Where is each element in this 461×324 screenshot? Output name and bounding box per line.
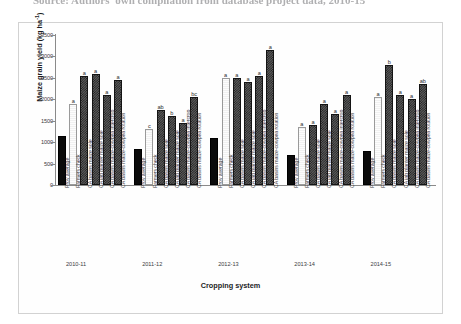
x-tick-label: CA jab planter maize sole	[98, 130, 104, 188]
significance-letter: a	[72, 98, 75, 104]
significance-letter: a	[269, 44, 272, 50]
x-tick-label: CA basins maize sole	[239, 139, 245, 188]
y-tick-mark	[51, 142, 55, 143]
group-year-label: 2013-14	[294, 261, 315, 267]
significance-letter: a	[410, 93, 413, 99]
x-tick-label: Prov average	[64, 158, 70, 188]
y-axis-title: Maize grain yield (kg ha-1)	[34, 0, 44, 132]
x-tick-label: CA jab planter maize sole	[174, 130, 180, 188]
significance-letter: a	[376, 91, 379, 97]
x-tick-label: CA basins maize-cowpea intercrop	[414, 110, 420, 188]
x-tick-label: CA basins maize sole	[163, 139, 169, 188]
x-tick-label: Farmers check	[304, 154, 310, 188]
significance-letter: b	[170, 110, 173, 116]
significance-letter: a	[235, 72, 238, 78]
significance-letter: ab	[157, 104, 163, 110]
x-tick-label: CA basins maize-cowpea rotation	[196, 113, 202, 188]
group-year-label: 2014-15	[371, 261, 392, 267]
x-tick-label: Farmers check	[75, 154, 81, 188]
y-tick-label: 500	[27, 161, 53, 167]
x-tick-label: CA jab planter maize sole	[250, 130, 256, 188]
x-tick-label: CA basins maize-cowpea intercrop	[261, 110, 267, 188]
significance-letter: a	[399, 89, 402, 95]
x-tick-label: Farmers check	[228, 154, 234, 188]
x-tick-label: CA basins maize-cowpea rotation	[273, 113, 279, 188]
significance-letter: a	[94, 68, 97, 74]
x-tick-label: Farmers check	[152, 154, 158, 188]
significance-letter: a	[258, 70, 261, 76]
x-tick-label: CA basins maize sole	[391, 139, 397, 188]
significance-letter: ab	[420, 78, 426, 84]
x-tick-label: CA basins maize sole	[315, 139, 321, 188]
source-caption: Source: Authors' own compilation from da…	[33, 0, 453, 8]
significance-letter: b	[388, 59, 391, 65]
significance-letter: a	[311, 119, 314, 125]
significance-letter: a	[83, 70, 86, 76]
y-tick-mark	[51, 185, 55, 186]
y-tick-mark	[51, 56, 55, 57]
significance-letter: a	[323, 98, 326, 104]
x-tick-label: CA basins maize-cowpea rotation	[425, 113, 431, 188]
x-tick-label: Prov average	[217, 158, 223, 188]
y-tick-mark	[51, 121, 55, 122]
significance-letter: a	[345, 89, 348, 95]
x-tick-label: CA jab planter maize sole	[403, 130, 409, 188]
x-tick-label: CA jab planter maize sole	[326, 130, 332, 188]
significance-letter: a	[300, 121, 303, 127]
x-tick-label: Farmers check	[380, 154, 386, 188]
x-tick-label: CA basins maize-cowpea intercrop	[338, 110, 344, 188]
significance-letter: a	[116, 74, 119, 80]
significance-letter: a	[246, 76, 249, 82]
y-tick-mark	[51, 78, 55, 79]
x-tick-label: CA basins maize-cowpea rotation	[120, 113, 126, 188]
y-tick-label: 0	[27, 182, 53, 188]
y-tick-mark	[51, 164, 55, 165]
x-tick-label: CA basins maize-cowpea rotation	[349, 113, 355, 188]
x-tick-label: CA basins maize-cowpea intercrop	[109, 110, 115, 188]
x-tick-label: Prov average	[369, 158, 375, 188]
group-year-label: 2010-11	[66, 261, 86, 267]
group-year-label: 2012-13	[218, 261, 239, 267]
y-tick-label: 1000	[27, 139, 53, 145]
significance-letter: bc	[191, 91, 197, 97]
y-tick-mark	[51, 99, 55, 100]
x-tick-label: Prov average	[293, 158, 299, 188]
significance-letter: a	[334, 108, 337, 114]
y-tick-mark	[51, 35, 55, 36]
significance-letter: c	[148, 123, 151, 129]
x-tick-label: CA basins maize sole	[87, 139, 93, 188]
group-year-label: 2011-12	[142, 261, 162, 267]
significance-letter: a	[224, 72, 227, 78]
x-axis-title: Cropping system	[0, 281, 461, 290]
x-tick-label: Prov average	[140, 158, 146, 188]
x-tick-label: CA basins maize-cowpea intercrop	[185, 110, 191, 188]
significance-letter: a	[105, 89, 108, 95]
